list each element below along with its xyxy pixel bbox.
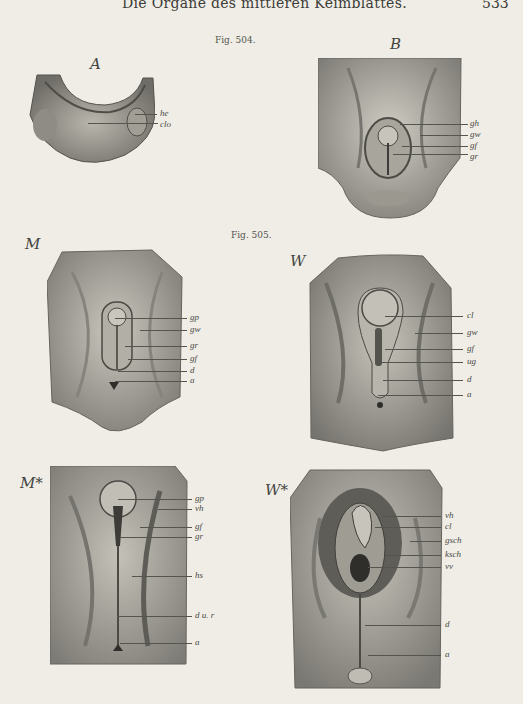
leader-line	[383, 516, 441, 517]
leader-line	[393, 154, 468, 155]
leader-line	[410, 541, 441, 542]
label-m-a: a	[190, 375, 195, 385]
panel-b-illustration	[318, 58, 463, 223]
label-m-gr: gr	[190, 340, 198, 350]
leader-line	[118, 371, 187, 372]
leader-line	[125, 346, 187, 347]
label-ws-vv: vv	[445, 561, 453, 571]
label-ms-gf: gf	[195, 521, 202, 531]
label-ms-gp: gp	[195, 493, 204, 503]
leader-line	[117, 616, 192, 617]
label-ms-hs: hs	[195, 570, 203, 580]
label-gw: gw	[470, 129, 481, 139]
label-ws-cl: cl	[445, 521, 452, 531]
leader-line	[140, 330, 187, 331]
panel-m-star-illustration	[50, 466, 188, 666]
leader-line	[368, 655, 441, 656]
label-m-gp: gp	[190, 312, 199, 322]
leader-line	[378, 395, 463, 396]
leader-line	[135, 114, 157, 115]
label-m-gf: gf	[190, 353, 197, 363]
leader-line	[118, 499, 192, 500]
running-title: Die Organe des mittleren Keimblattes.	[122, 0, 407, 11]
label-ws-ksch: ksch	[445, 549, 461, 559]
panel-w-letter: W	[290, 252, 305, 270]
label-ws-a: a	[445, 649, 450, 659]
panel-w-star-letter: W*	[265, 481, 288, 499]
panel-w-illustration	[308, 253, 458, 453]
label-ms-gr: gr	[195, 531, 203, 541]
leader-line	[385, 555, 441, 556]
panel-m-letter: M	[25, 235, 40, 253]
label-ws-gsch: gsch	[445, 535, 462, 545]
leader-line	[365, 625, 441, 626]
label-w-a: a	[467, 389, 472, 399]
leader-line	[368, 567, 441, 568]
figure-505-caption: Fig. 505.	[231, 230, 272, 240]
leader-line	[88, 123, 158, 124]
label-w-gf: gf	[467, 343, 474, 353]
label-ws-vh: vh	[445, 510, 454, 520]
label-ws-d: d	[445, 619, 450, 629]
leader-line	[383, 380, 463, 381]
leader-line	[378, 362, 463, 363]
leader-line	[120, 537, 192, 538]
label-gh: gh	[470, 118, 479, 128]
leader-line	[158, 509, 192, 510]
page-header: Die Organe des mittleren Keimblattes. 53…	[0, 0, 523, 14]
leader-line	[115, 318, 187, 319]
leader-line	[132, 576, 192, 577]
label-clo: clo	[160, 119, 171, 129]
label-ms-a: a	[195, 637, 200, 647]
panel-m-star-letter: M*	[20, 474, 43, 492]
label-w-gw: gw	[467, 327, 478, 337]
leader-line	[402, 146, 468, 147]
page-number: 533	[482, 0, 509, 11]
leader-line	[385, 316, 463, 317]
panel-a-illustration	[25, 70, 155, 165]
leader-line	[420, 135, 468, 136]
leader-line	[140, 527, 192, 528]
leader-line	[128, 359, 187, 360]
leader-line	[120, 643, 192, 644]
label-he: he	[160, 108, 169, 118]
label-ms-vh: vh	[195, 503, 204, 513]
panel-m-illustration	[47, 247, 187, 437]
label-m-d: d	[190, 365, 195, 375]
label-w-d: d	[467, 374, 472, 384]
leader-line	[415, 333, 463, 334]
label-m-gw: gw	[190, 324, 201, 334]
label-w-cl: cl	[467, 310, 474, 320]
label-gf: gf	[470, 140, 477, 150]
label-ms-d-u-r: d u. r	[195, 610, 214, 620]
panel-b-letter: B	[390, 35, 401, 53]
label-w-ug: ug	[467, 356, 476, 366]
leader-line	[385, 349, 463, 350]
label-gr: gr	[470, 151, 478, 161]
leader-line	[375, 527, 441, 528]
leader-line	[400, 124, 468, 125]
panel-w-star-illustration	[290, 468, 445, 690]
figure-504-caption: Fig. 504.	[215, 35, 256, 45]
leader-line	[115, 381, 187, 382]
